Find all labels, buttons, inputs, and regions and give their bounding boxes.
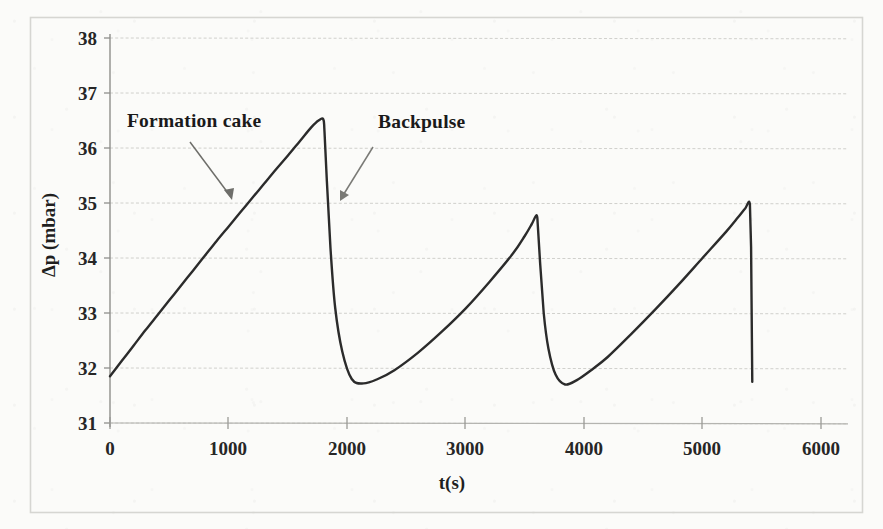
x-tick-label: 2000 xyxy=(328,438,366,459)
annotation-label-formation-cake: Formation cake xyxy=(127,110,262,131)
x-axis-title: t(s) xyxy=(439,472,465,494)
x-axis-line xyxy=(110,423,848,424)
x-tick-label: 0 xyxy=(105,438,115,459)
x-tick-label: 6000 xyxy=(802,438,840,459)
x-tick-label: 3000 xyxy=(446,438,484,459)
y-tick-label: 35 xyxy=(78,193,97,214)
annotation-formation-cake: Formation cake xyxy=(127,110,262,200)
y-tick-label: 31 xyxy=(78,413,97,434)
y-axis-title: Δp (mbar) xyxy=(38,193,60,277)
annotation-label-backpulse: Backpulse xyxy=(378,111,466,132)
y-gridlines xyxy=(110,38,848,424)
series-line xyxy=(110,119,752,385)
annotation-leader-line-formation-cake xyxy=(190,142,231,197)
y-tick-label: 37 xyxy=(78,83,98,104)
y-tick-marks xyxy=(104,38,110,423)
y-tick-label: 32 xyxy=(78,358,97,379)
annotation-backpulse: Backpulse xyxy=(340,111,466,201)
y-tick-label: 36 xyxy=(78,138,97,159)
figure-container: 38 37 36 35 34 33 32 31 0 1000 2000 3000… xyxy=(0,0,883,529)
annotation-leader-line-backpulse xyxy=(342,147,373,197)
x-tick-label: 4000 xyxy=(565,438,603,459)
x-tick-label: 1000 xyxy=(209,438,247,459)
y-tick-label: 38 xyxy=(78,28,97,49)
y-tick-label: 34 xyxy=(78,248,98,269)
y-tick-label: 33 xyxy=(78,303,97,324)
annotation-arrowhead-formation-cake xyxy=(224,188,234,200)
chart-canvas: 38 37 36 35 34 33 32 31 0 1000 2000 3000… xyxy=(0,0,883,529)
data-series-tmp xyxy=(110,119,752,385)
x-tick-label: 5000 xyxy=(683,438,721,459)
